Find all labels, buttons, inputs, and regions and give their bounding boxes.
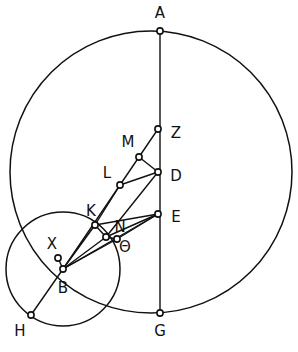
label-H: H (14, 322, 25, 340)
label-M: M (122, 133, 135, 151)
label-TH: Θ (119, 238, 131, 256)
segment-Z-M (139, 129, 158, 157)
segment-B-L (63, 185, 120, 269)
circles-layer (6, 31, 292, 326)
point-N (103, 234, 109, 240)
geometric-diagram: AZMDLEKNΘXBGH (0, 0, 298, 352)
label-X: X (47, 235, 57, 253)
label-K: K (86, 202, 97, 220)
label-L: L (103, 164, 112, 182)
point-K (92, 222, 98, 228)
vertices-layer (28, 28, 163, 318)
diagram-canvas: AZMDLEKNΘXBGH (0, 0, 298, 352)
point-L (117, 182, 123, 188)
large-circle (10, 31, 292, 313)
segment-M-L (120, 157, 139, 185)
point-Z (155, 126, 161, 132)
point-G (157, 310, 163, 316)
label-E: E (171, 208, 180, 226)
label-G: G (154, 322, 166, 340)
label-Z: Z (171, 124, 181, 142)
label-N: N (114, 218, 125, 236)
point-E (155, 211, 161, 217)
label-A: A (155, 4, 166, 22)
point-B (60, 266, 66, 272)
point-M (136, 154, 142, 160)
label-D: D (170, 167, 182, 185)
point-H (28, 312, 34, 318)
point-A (157, 28, 163, 34)
point-D (155, 169, 161, 175)
label-B: B (58, 279, 68, 297)
point-X (55, 255, 61, 261)
segment-B-N (63, 237, 106, 269)
